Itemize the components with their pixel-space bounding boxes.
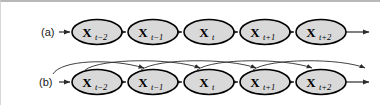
node-label-base: X [250,25,260,40]
panel-b-nodes: X t−2 X t−1 X t X t+1 [72,70,346,95]
node-label-subscript: t−2 [95,82,108,92]
node-a4: X t+2 [296,20,346,45]
panel-a: (a) X t−2 X t−1 [41,20,369,45]
panel-b: (b) X [39,61,369,95]
node-b3: X t+1 [240,70,290,95]
markov-chain-figure: (a) X t−2 X t−1 [0,0,380,105]
node-label-base: X [199,75,209,90]
node-label-base: X [82,75,92,90]
node-label-base: X [138,25,148,40]
node-label-subscript: t−1 [151,32,163,42]
node-b4: X t+2 [296,70,346,95]
node-a3: X t+1 [240,20,290,45]
node-label-base: X [250,75,260,90]
node-label-base: X [138,75,148,90]
node-a1: X t−1 [128,20,178,45]
panel-a-nodes: X t−2 X t−1 X t X t+1 [72,20,346,45]
node-label-subscript: t+1 [263,82,275,92]
skip-edge-b3-exit [253,61,365,70]
panel-b-label: (b) [39,76,52,88]
diagram-canvas: (a) X t−2 X t−1 [1,2,380,105]
node-b1: X t−1 [128,70,178,95]
node-label-subscript: t+2 [319,82,332,92]
node-b2: X t [184,70,234,95]
panel-a-label: (a) [41,26,54,38]
node-b0: X t−2 [72,70,122,95]
node-label-subscript: t+2 [319,32,332,42]
node-label-base: X [306,75,316,90]
node-ellipse [184,70,234,95]
node-label-subscript: t−1 [151,82,163,92]
node-label-base: X [306,25,316,40]
node-ellipse [184,20,234,45]
node-label-base: X [199,25,209,40]
node-label-subscript: t−2 [95,32,108,42]
node-label-subscript: t+1 [263,32,275,42]
node-label-base: X [82,25,92,40]
node-a2: X t [184,20,234,45]
node-a0: X t−2 [72,20,122,45]
